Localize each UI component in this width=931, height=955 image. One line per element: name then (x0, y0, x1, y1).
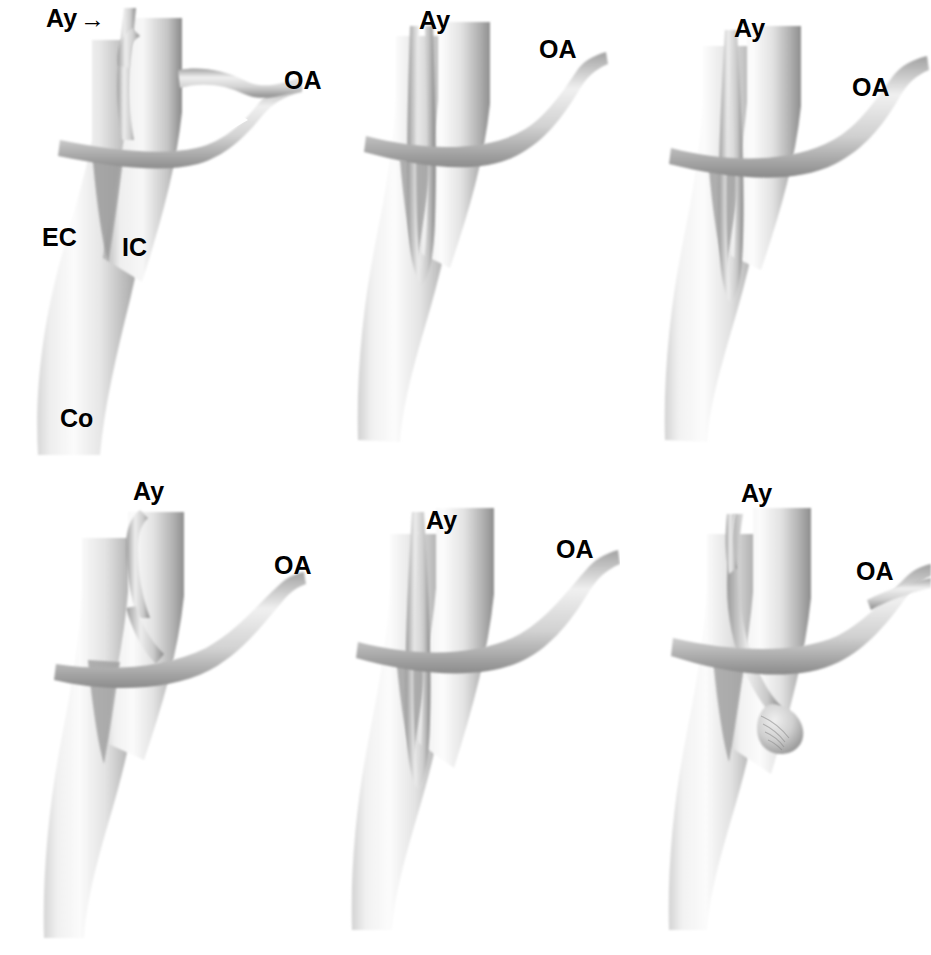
label-ay-panel-2: Ay (419, 8, 450, 33)
label-oa-panel-4: OA (274, 553, 312, 578)
label-ec-panel-1: EC (42, 225, 77, 250)
vessel-group-5 (352, 508, 620, 930)
panel-4 (0, 478, 310, 955)
panel-2 (310, 0, 620, 477)
vessel-group-1 (37, 8, 302, 455)
vessel-group-4 (44, 510, 306, 938)
panel-3 (621, 0, 931, 477)
label-ay-panel-6: Ay (741, 481, 772, 506)
panel-6 (621, 478, 931, 955)
label-oa-panel-2: OA (539, 37, 577, 62)
label-ay-panel-5: Ay (426, 508, 457, 533)
label-ay-panel-1: Ay→ (46, 6, 105, 32)
figure-root: Ay→ OA EC IC Co Ay OA Ay OA Ay OA Ay OA … (0, 0, 931, 955)
arrow-right-icon: → (80, 7, 105, 32)
label-oa-panel-6: OA (856, 559, 894, 584)
label-ay-text: Ay (46, 4, 77, 32)
label-oa-panel-3: OA (852, 75, 890, 100)
label-oa-panel-5: OA (556, 537, 594, 562)
label-ay-panel-4: Ay (133, 479, 164, 504)
label-oa-panel-1: OA (284, 68, 322, 93)
label-ic-panel-1: IC (122, 235, 147, 260)
vessel-group-2 (358, 22, 608, 442)
label-ay-panel-3: Ay (734, 16, 765, 41)
label-co-panel-1: Co (60, 406, 93, 431)
